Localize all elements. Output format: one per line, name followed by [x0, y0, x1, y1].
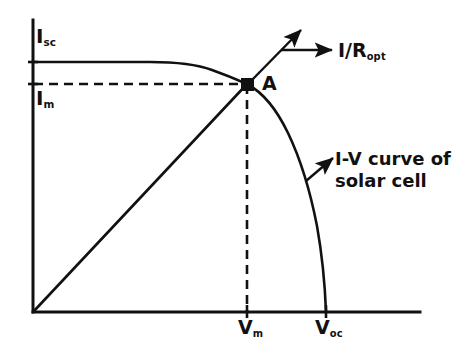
isc-sub: sc — [43, 36, 56, 48]
y-tick-label-im: Im — [36, 88, 54, 108]
solar-cell-iv-figure: Isc Im Vm Voc I/Ropt A I-V curve of sola… — [0, 0, 473, 360]
curve-annotation-arrow — [306, 158, 333, 181]
load-line-sub: opt — [367, 51, 386, 62]
y-tick-label-isc: Isc — [36, 26, 56, 46]
x-tick-label-voc: Voc — [315, 318, 343, 337]
vm-base: V — [238, 316, 253, 338]
x-tick-label-vm: Vm — [238, 318, 263, 337]
iv-curve-series — [34, 62, 326, 312]
curve-annotation-label: I-V curve of solar cell — [335, 148, 465, 192]
load-line-label: I/Ropt — [338, 41, 386, 60]
load-line-base: I/R — [338, 39, 367, 61]
voc-base: V — [315, 316, 330, 338]
vm-sub: m — [253, 328, 264, 339]
voc-sub: oc — [330, 328, 343, 339]
load-line-series — [34, 84, 247, 311]
im-sub: m — [43, 98, 54, 110]
point-a-label: A — [262, 74, 277, 93]
